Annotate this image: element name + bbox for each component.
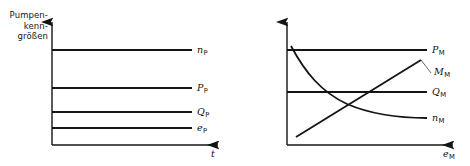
pump-y-axis-label-line3: größen	[2, 31, 48, 42]
motor-curve-m-m-leader-line	[421, 60, 431, 73]
motor-x-axis-label-sub: M	[449, 153, 455, 161]
figure-root: Pumpen- kenn- größen nP PP QP eP t	[0, 0, 470, 166]
pump-y-axis-label: Pumpen- kenn- größen	[2, 10, 48, 42]
motor-x-axis-label: eM	[443, 148, 455, 159]
pump-curve-label-e-p-base: e	[197, 122, 203, 133]
chart-panel-pump: Pumpen- kenn- größen nP PP QP eP t	[0, 0, 235, 166]
pump-curve-label-n-p-sub: P	[204, 49, 208, 57]
motor-curve-label-m-m-sub: M	[444, 71, 450, 79]
pump-y-axis-label-line2: kenn-	[2, 21, 48, 32]
motor-curve-label-m-m-base: M	[434, 66, 444, 77]
pump-curve-label-e-p: eP	[197, 122, 207, 133]
pump-x-axis-label-base: t	[211, 148, 215, 159]
motor-chart-svg	[235, 0, 470, 166]
motor-curve-m-m	[296, 60, 421, 137]
pump-curve-label-p-p-sub: P	[204, 87, 208, 95]
pump-curve-label-q-p-sub: P	[205, 111, 209, 119]
pump-curve-label-p-p-base: P	[197, 82, 203, 93]
pump-curve-label-p-p: PP	[197, 82, 208, 93]
motor-curve-label-p-m: PM	[432, 44, 444, 55]
pump-x-axis-label: t	[211, 148, 215, 159]
motor-x-axis-label-base: e	[443, 148, 449, 159]
pump-curve-label-n-p-base: n	[197, 44, 203, 55]
pump-y-axis-label-line1: Pumpen-	[2, 10, 48, 21]
motor-curve-n-m	[291, 46, 427, 118]
pump-curve-label-e-p-sub: P	[203, 127, 207, 135]
motor-curve-label-m-m: MM	[434, 66, 450, 77]
motor-curve-label-n-m-sub: M	[439, 117, 445, 125]
motor-curve-label-n-m: nM	[432, 112, 444, 123]
motor-curve-label-q-m-base: Q	[432, 86, 440, 97]
motor-curve-label-q-m: QM	[432, 86, 446, 97]
pump-curve-label-q-p: QP	[197, 106, 209, 117]
motor-curve-label-p-m-sub: M	[439, 49, 445, 57]
motor-curve-label-p-m-base: P	[432, 44, 438, 55]
pump-curve-label-n-p: nP	[197, 44, 207, 55]
pump-curve-label-q-p-base: Q	[197, 106, 205, 117]
chart-panel-motor: Motor- kenn- größen PM MM QM nM eM	[235, 0, 470, 166]
motor-curve-label-q-m-sub: M	[440, 91, 446, 99]
motor-curve-label-n-m-base: n	[432, 112, 438, 123]
